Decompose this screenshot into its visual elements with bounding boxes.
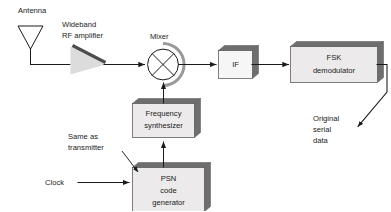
amplifier-triangle-icon [71,46,106,75]
if-block-label: IF [232,60,239,69]
same-as-label-line2: transmitter [68,143,104,152]
mixer-label: Mixer [150,32,169,41]
same-as-label-line1: Same as [68,132,98,141]
output-label-line2: serial [313,125,331,134]
psn-block-label-line3: generator [152,198,185,207]
synth-block-label-line1: Frequency [146,109,182,118]
psn-block-label-line2: code [160,186,176,195]
output-label-line1: Original [313,114,339,123]
antenna-label: Antenna [18,6,47,15]
amplifier-label-line2: RF amplifier [62,31,103,40]
fsk-block-label-line2: demodulator [313,66,356,75]
fsk-block-label-line1: FSK [327,53,342,62]
synth-block-label-line2: synthesizer [144,121,183,130]
frequency-synthesizer-block: Frequency synthesizer [133,99,201,138]
amplifier-label-line1: Wideband [62,20,96,29]
antenna-icon [18,26,43,65]
if-block: IF [219,46,259,79]
same-as-pointer-arrow [122,151,138,172]
clock-label: Clock [45,178,64,187]
psn-code-generator-block: PSN code generator [133,163,211,212]
fsk-demodulator-block: FSK demodulator [291,42,384,83]
psn-block-label-line1: PSN [161,174,177,183]
diagram-svg: Antenna Wideband RF amplifier Mixer IF [0,0,391,211]
block-diagram-canvas: Antenna Wideband RF amplifier Mixer IF [0,0,391,211]
output-label-line3: data [313,136,329,145]
